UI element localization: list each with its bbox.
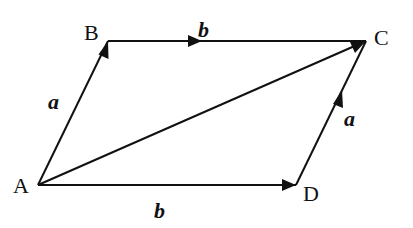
point-label-b: B <box>84 20 99 45</box>
point-label-a: A <box>13 173 29 198</box>
vector-dc <box>296 41 366 185</box>
vector-label-bc: b <box>198 17 209 42</box>
vector-label-ad: b <box>154 198 165 223</box>
vector-label-dc: a <box>344 106 355 131</box>
arrowhead-ad <box>282 179 296 191</box>
point-label-d: D <box>303 181 319 206</box>
vector-ac-diagonal <box>38 41 366 185</box>
vector-label-ab: a <box>48 89 59 114</box>
parallelogram-diagram: A B C D a b b a <box>0 0 413 228</box>
point-label-c: C <box>374 25 389 50</box>
